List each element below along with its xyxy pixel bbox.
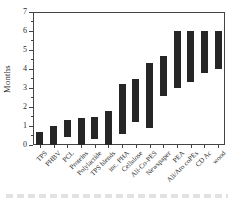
y-minor-tick [31, 97, 33, 98]
x-tick [81, 145, 82, 148]
range-bar [105, 111, 112, 145]
range-bar [36, 132, 43, 145]
y-tick-label: 4 [13, 65, 27, 73]
y-minor-tick [31, 40, 33, 41]
y-minor-tick [31, 59, 33, 60]
x-tick [218, 145, 219, 148]
x-tick [108, 145, 109, 148]
y-major-tick [29, 126, 33, 127]
y-major-tick [29, 69, 33, 70]
range-bar [160, 56, 167, 96]
y-major-tick [29, 12, 33, 13]
y-major-tick [29, 50, 33, 51]
x-tick [177, 145, 178, 148]
y-axis-title: Months [2, 65, 12, 93]
y-tick-label: 3 [13, 84, 27, 92]
biodegradation-time-chart: Months 01234567TPSPHBVPCLProteinsPolylac… [0, 0, 234, 202]
y-tick-label: 0 [13, 141, 27, 149]
x-tick [67, 145, 68, 148]
y-tick-label: 2 [13, 103, 27, 111]
range-bar [187, 31, 194, 82]
range-bar [91, 117, 98, 140]
x-tick [204, 145, 205, 148]
y-tick-label: 7 [13, 8, 27, 16]
y-major-tick [29, 88, 33, 89]
range-bar [146, 63, 153, 128]
range-bar [64, 120, 71, 137]
cropped-caption-fragment [6, 194, 228, 198]
y-minor-tick [31, 116, 33, 117]
y-minor-tick [31, 135, 33, 136]
x-tick [40, 145, 41, 148]
range-bar [119, 84, 126, 133]
range-bar [174, 31, 181, 88]
y-major-tick [29, 145, 33, 146]
x-tick [136, 145, 137, 148]
x-tick [191, 145, 192, 148]
y-major-tick [29, 31, 33, 32]
x-tick [163, 145, 164, 148]
range-bar [50, 126, 57, 145]
range-bar [78, 118, 85, 145]
y-minor-tick [31, 78, 33, 79]
y-minor-tick [31, 21, 33, 22]
y-tick-label: 1 [13, 122, 27, 130]
x-tick [54, 145, 55, 148]
x-tick [122, 145, 123, 148]
y-major-tick [29, 107, 33, 108]
y-tick-label: 6 [13, 27, 27, 35]
range-bar [132, 79, 139, 123]
x-tick [150, 145, 151, 148]
range-bar [215, 31, 222, 69]
x-tick [95, 145, 96, 148]
y-tick-label: 5 [13, 46, 27, 54]
x-tick-label: wood [211, 150, 227, 166]
plot-area [33, 12, 225, 145]
range-bar [201, 31, 208, 73]
